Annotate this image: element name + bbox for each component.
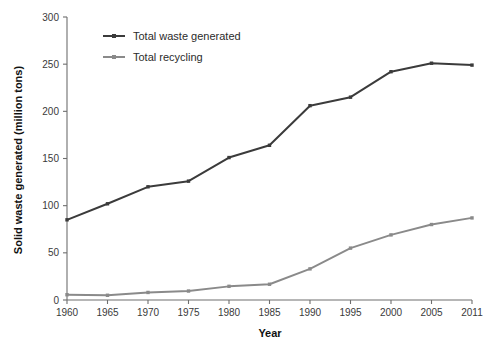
data-point-marker [349,246,352,249]
data-point-marker [308,267,311,270]
x-tick-label: 1995 [339,307,362,318]
data-point-marker [227,285,230,288]
x-tick-label: 1990 [299,307,322,318]
data-point-marker [470,216,473,219]
y-tick-label: 150 [42,153,59,164]
data-point-marker [106,294,109,297]
legend-marker [112,55,116,59]
line-chart: 050100150200250300 196019651970197519801… [0,0,489,345]
data-point-marker [349,95,352,98]
x-tick-label: 2000 [380,307,403,318]
y-tick-label: 100 [42,200,59,211]
x-tick-label: 2005 [420,307,443,318]
y-tick-label: 0 [53,295,59,306]
data-point-marker [430,62,433,65]
data-point-marker [227,156,230,159]
x-tick-label: 1975 [177,307,200,318]
data-point-marker [106,202,109,205]
chart-background [0,0,489,345]
y-tick-label: 300 [42,12,59,23]
data-point-marker [146,185,149,188]
data-point-marker [430,223,433,226]
x-tick-label: 1980 [218,307,241,318]
data-point-marker [389,70,392,73]
y-tick-label: 200 [42,106,59,117]
x-tick-label: 1965 [96,307,119,318]
x-axis-title: Year [258,327,282,339]
x-tick-label: 1960 [56,307,79,318]
chart-canvas: 050100150200250300 196019651970197519801… [0,0,489,345]
x-tick-label: 1985 [258,307,281,318]
y-tick-label: 50 [48,247,60,258]
legend-label: Total waste generated [133,30,241,42]
data-point-marker [268,144,271,147]
legend-marker [112,34,116,38]
x-tick-label: 1970 [137,307,160,318]
data-point-marker [389,233,392,236]
y-tick-label: 250 [42,59,59,70]
data-point-marker [268,283,271,286]
data-point-marker [187,179,190,182]
data-point-marker [65,218,68,221]
y-axis-title: Solid waste generated (million tons) [12,66,24,255]
data-point-marker [308,104,311,107]
x-tick-label: 2011 [461,307,483,318]
legend-label: Total recycling [133,51,203,63]
data-point-marker [65,293,68,296]
data-point-marker [187,289,190,292]
data-point-marker [470,63,473,66]
data-point-marker [146,291,149,294]
